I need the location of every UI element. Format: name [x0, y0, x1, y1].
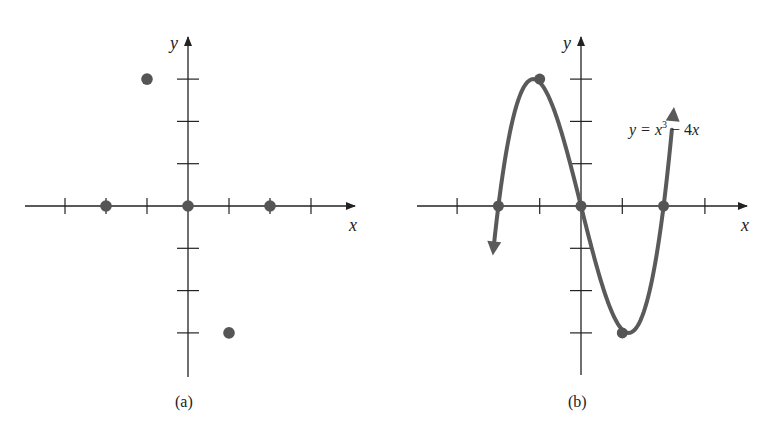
- y-axis-label: y: [168, 33, 178, 53]
- x-axis-label: x: [348, 215, 357, 235]
- panel-caption: (a): [175, 393, 193, 411]
- data-point: [100, 200, 112, 212]
- curve-point: [534, 74, 545, 85]
- equation-label: y = x3 − 4x: [627, 119, 699, 139]
- panel-b: xy(b)y = x3 − 4x: [417, 33, 749, 411]
- curve-arrowhead-icon: [487, 241, 501, 256]
- panel-caption: (b): [568, 393, 587, 411]
- data-point: [223, 327, 235, 339]
- curve-point: [493, 201, 504, 212]
- x-axis-label: x: [740, 215, 749, 235]
- data-point: [182, 200, 194, 212]
- panel-a: xy(a): [25, 33, 357, 411]
- data-point: [264, 200, 276, 212]
- figure: xy(a) xy(b)y = x3 − 4x: [0, 0, 766, 437]
- curve-point: [658, 201, 669, 212]
- curve-point: [617, 327, 628, 338]
- curve-point: [576, 201, 587, 212]
- curve-arrowhead-icon: [666, 107, 680, 122]
- y-axis-label: y: [561, 33, 571, 53]
- data-point: [141, 73, 153, 85]
